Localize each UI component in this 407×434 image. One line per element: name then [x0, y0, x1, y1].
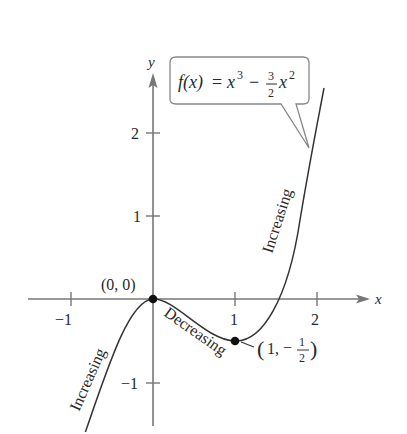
point-origin-label: (0, 0): [101, 276, 136, 294]
svg-text:=: =: [212, 72, 222, 92]
svg-text:f(x): f(x): [178, 72, 203, 93]
svg-text:x: x: [278, 72, 287, 92]
svg-text:): ): [310, 336, 317, 361]
x-tick-label: 2: [311, 311, 319, 328]
x-tick-label: −1: [55, 311, 72, 328]
y-axis-label: y: [146, 54, 155, 70]
annotation-decreasing: Decreasing: [161, 304, 230, 360]
chart-canvas: x y −1 1 2 2 1 −1 (0, 0) ( (1, 1, − 1 2 …: [0, 0, 407, 434]
y-tick-label: 2: [131, 125, 139, 142]
svg-text:2: 2: [299, 351, 305, 365]
svg-text:2: 2: [268, 86, 274, 100]
y-tick-label: −1: [121, 375, 138, 392]
annotation-increasing-right: Increasing: [259, 186, 297, 255]
svg-text:1: 1: [299, 335, 305, 349]
y-tick-label: 1: [133, 208, 141, 225]
point-minimum: [231, 337, 240, 346]
svg-text:x: x: [226, 72, 235, 92]
svg-text:3: 3: [237, 68, 243, 82]
svg-text:(: (: [257, 336, 264, 361]
svg-text:−: −: [283, 339, 292, 356]
svg-text:−: −: [249, 72, 259, 92]
point-minimum-label: ( (1, 1, − 1 2 ): [257, 335, 317, 365]
svg-text:1,: 1,: [267, 340, 279, 357]
minimum-leader-line: [241, 342, 254, 347]
x-tick-label: 1: [230, 311, 238, 328]
svg-text:2: 2: [289, 68, 295, 82]
svg-text:3: 3: [268, 69, 274, 83]
point-origin: [149, 295, 158, 304]
x-axis-label: x: [374, 291, 382, 307]
